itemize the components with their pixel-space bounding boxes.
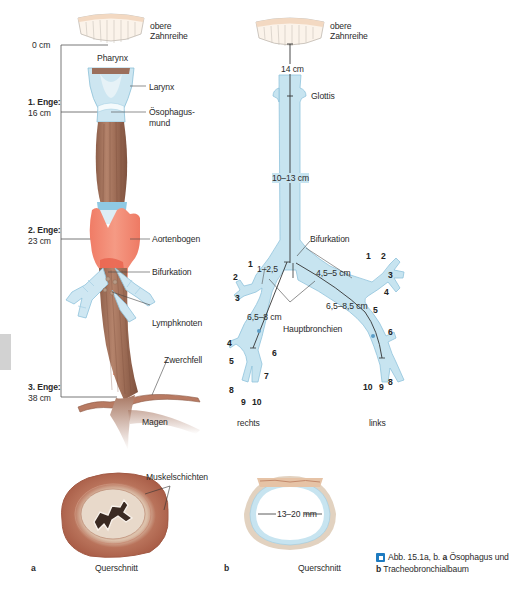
- narrowing-1-value: 16 cm: [28, 108, 51, 118]
- panel-b-letter: b: [224, 563, 229, 573]
- narrowing-2-value: 23 cm: [28, 236, 51, 246]
- muscle-layers-label: Muskelschichten: [146, 472, 208, 482]
- right-side-label: rechts: [237, 418, 260, 428]
- anatomy-illustration: [0, 0, 514, 603]
- right-segment-7: 7: [264, 371, 269, 381]
- oesophagus-mouth-line1: Ösophagus-: [149, 107, 195, 117]
- right-segment-5: 5: [229, 356, 234, 366]
- upper-teeth-b: [256, 18, 324, 46]
- right-segment-6: 6: [272, 348, 277, 358]
- teeth-label-a-line1: obere: [150, 21, 171, 31]
- panel-a-letter: a: [31, 563, 36, 573]
- caption-b-text: Tracheobronchialbaum: [383, 564, 469, 574]
- right-upper-lobe-distance: 1–2,5: [257, 264, 278, 274]
- cross-section-a-title: Querschnitt: [95, 563, 138, 573]
- caption-a-letter: a: [442, 552, 447, 562]
- left-side-label: links: [369, 418, 386, 428]
- glottis-label: Glottis: [311, 91, 335, 101]
- main-bronchi-label: Hauptbronchien: [283, 324, 342, 334]
- left-main-bronchus-length: 6,5–8,5 cm: [326, 301, 368, 311]
- bifurcation-b-label: Bifurkation: [310, 234, 350, 244]
- right-segment-1: 1: [248, 259, 253, 269]
- pharynx-label: Pharynx: [97, 53, 128, 63]
- left-segment-5: 5: [373, 305, 378, 315]
- left-segment-6: 6: [388, 327, 393, 337]
- figure-caption-line2: b Tracheobronchialbaum: [376, 564, 469, 574]
- teeth-label-a-line2: Zahnreihe: [150, 31, 188, 41]
- narrowing-1-title: 1. Enge:: [28, 97, 61, 107]
- caption-b-letter: b: [376, 564, 381, 574]
- left-segment-10: 10: [363, 382, 373, 392]
- aortic-arch-label: Aortenbogen: [152, 234, 200, 244]
- narrowing-3-value: 38 cm: [28, 393, 51, 403]
- trachea-diameter-label: 13–20 mm: [277, 509, 317, 519]
- left-segment-3: 3: [388, 270, 393, 280]
- right-segment-8: 8: [229, 385, 234, 395]
- teeth-label-b-line1: obere: [330, 21, 351, 31]
- esophagus-cross-section: [62, 473, 170, 557]
- zero-cm-label: 0 cm: [32, 40, 50, 50]
- right-segment-10: 10: [252, 397, 262, 407]
- left-segment-8: 8: [388, 377, 393, 387]
- right-segment-9: 9: [241, 397, 246, 407]
- teeth-label-b-line2: Zahnreihe: [330, 31, 368, 41]
- caption-figure-number: Abb. 15.1a, b.: [388, 552, 440, 562]
- oesophagus-mouth-line2: mund: [149, 118, 170, 128]
- larynx-shape: [88, 68, 134, 122]
- bifurcation-a-label: Bifurkation: [152, 267, 192, 277]
- figure-icon: [376, 553, 385, 562]
- right-segment-3: 3: [235, 293, 240, 303]
- figure-caption-line1: Abb. 15.1a, b. a Ösophagus und: [388, 552, 509, 562]
- left-segment-9: 9: [379, 382, 384, 392]
- cross-section-b-title: Querschnitt: [298, 563, 341, 573]
- lymph-nodes-label: Lymphknoten: [152, 318, 202, 328]
- side-thumb-tab: [0, 334, 11, 370]
- narrowing-3-title: 3. Enge:: [28, 382, 61, 392]
- stomach-label: Magen: [142, 417, 168, 427]
- upper-teeth-a: [78, 14, 144, 43]
- left-segment-2: 2: [381, 251, 386, 261]
- diaphragm-label: Zwerchfell: [164, 355, 202, 365]
- left-segment-4: 4: [384, 287, 389, 297]
- caption-a-text: Ösophagus und: [449, 552, 508, 562]
- left-main-upper-distance: 4,5–5 cm: [316, 268, 351, 278]
- left-segment-1: 1: [366, 251, 371, 261]
- larynx-label: Larynx: [149, 82, 174, 92]
- right-segment-2: 2: [233, 272, 238, 282]
- distance-14cm: 14 cm: [281, 64, 304, 74]
- right-segment-4: 4: [227, 338, 232, 348]
- right-main-bronchus-length: 6,5–8 cm: [247, 312, 282, 322]
- narrowing-2-title: 2. Enge:: [28, 225, 61, 235]
- trachea-length-label: 10–13 cm: [272, 173, 309, 183]
